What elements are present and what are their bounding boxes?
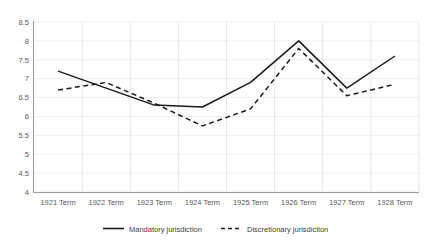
line-chart: 8.587.576.565.554.54 1921 Term1922 Term1… [0, 0, 426, 247]
x-tick-label: 1926 Term [281, 198, 316, 207]
chart-legend: Mandatory jurisdiction Discretionary jur… [103, 225, 328, 234]
y-axis-tick-labels: 8.587.576.565.554.54 [19, 18, 29, 197]
y-tick-label: 8 [25, 37, 29, 46]
y-tick-label: 7.5 [19, 56, 29, 65]
y-tick-label: 4.5 [19, 169, 29, 178]
y-tick-label: 8.5 [19, 18, 29, 27]
legend-label-mandatory-jurisdiction: Mandatory jurisdiction [129, 225, 202, 234]
legend-label-discretionary-jurisdiction: Discretionary jurisdiction [247, 225, 328, 234]
y-tick-label: 5 [25, 150, 29, 159]
x-axis-tick-labels: 1921 Term1922 Term1923 Term1924 Term1925… [40, 198, 412, 207]
x-tick-label: 1923 Term [137, 198, 172, 207]
y-tick-label: 4 [25, 188, 29, 197]
vertical-gridlines [82, 22, 419, 192]
y-tick-label: 7 [25, 74, 29, 83]
x-tick-label: 1928 Term [377, 198, 412, 207]
y-tick-label: 5.5 [19, 131, 29, 140]
x-tick-label: 1927 Term [329, 198, 364, 207]
y-tick-label: 6.5 [19, 93, 29, 102]
x-tick-label: 1921 Term [40, 198, 75, 207]
chart-canvas: 8.587.576.565.554.54 1921 Term1922 Term1… [0, 0, 426, 247]
x-tick-label: 1922 Term [89, 198, 124, 207]
y-tick-label: 6 [25, 112, 29, 121]
x-tick-label: 1924 Term [185, 198, 220, 207]
x-tick-label: 1925 Term [233, 198, 268, 207]
